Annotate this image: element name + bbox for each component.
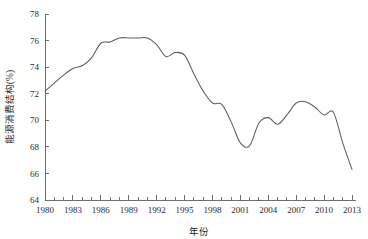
- tick-marks: [45, 14, 352, 200]
- x-axis-title: 年份: [189, 226, 209, 237]
- y-tick-label: 74: [30, 62, 40, 72]
- y-tick-label: 70: [30, 115, 40, 125]
- y-axis-title: 能源消费结构(%): [4, 70, 16, 144]
- y-tick-label: 64: [30, 195, 40, 205]
- data-series: [45, 37, 352, 169]
- axes: [45, 14, 356, 200]
- y-tick-label: 72: [30, 89, 39, 99]
- x-tick-label: 1986: [92, 205, 111, 215]
- x-tick-label: 1992: [148, 205, 166, 215]
- x-tick-label: 2007: [287, 205, 306, 215]
- line-chart: 6466687072747678 19801983198619891992199…: [0, 0, 368, 239]
- x-tick-label: 2013: [343, 205, 362, 215]
- x-axis-tick-labels: 1980198319861989199219951998200120042007…: [36, 205, 362, 215]
- x-tick-label: 2010: [315, 205, 334, 215]
- x-tick-label: 2001: [231, 205, 249, 215]
- x-tick-label: 1989: [120, 205, 139, 215]
- y-tick-label: 78: [30, 9, 40, 19]
- x-tick-label: 1980: [36, 205, 55, 215]
- y-tick-label: 66: [30, 169, 40, 179]
- x-tick-label: 1998: [203, 205, 222, 215]
- x-tick-label: 1983: [64, 205, 83, 215]
- x-tick-label: 1995: [176, 205, 195, 215]
- y-tick-label: 68: [30, 142, 40, 152]
- series-line-energy-structure: [45, 37, 352, 169]
- chart-container: 6466687072747678 19801983198619891992199…: [0, 0, 368, 239]
- y-axis-tick-labels: 6466687072747678: [30, 9, 40, 205]
- y-tick-label: 76: [30, 36, 40, 46]
- x-tick-label: 2004: [259, 205, 278, 215]
